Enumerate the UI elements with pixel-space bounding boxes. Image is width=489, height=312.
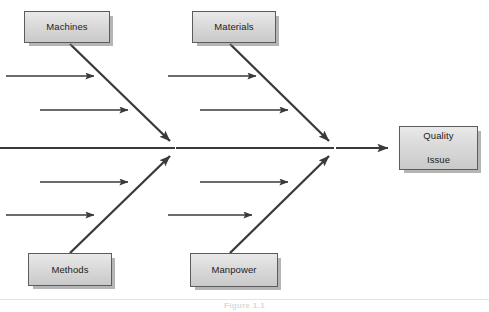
category-box-materials[interactable]: Materials [192,11,276,43]
effect-label-line1: Quality [423,130,453,142]
bone-methods [70,156,170,253]
category-box-methods[interactable]: Methods [28,253,112,286]
bone-materials [230,44,329,141]
category-label-materials: Materials [214,21,253,33]
category-label-methods: Methods [51,264,88,276]
category-box-manpower[interactable]: Manpower [190,253,278,287]
sub-causes-left [6,76,128,215]
effect-label-line2: Issue [423,154,453,166]
bone-manpower [230,156,329,253]
page-scan-edge [0,299,489,300]
category-box-machines[interactable]: Machines [24,11,110,43]
effect-box-quality-issue[interactable]: Quality Issue [399,126,478,170]
effect-label: Quality Issue [423,130,453,166]
sub-causes-right [168,76,288,215]
bone-machines [70,44,170,141]
fishbone-diagram: Machines Materials Methods Manpower Qual… [0,0,489,312]
category-label-manpower: Manpower [211,264,256,276]
figure-caption: Figure 1.1 [0,301,489,312]
category-label-machines: Machines [46,21,87,33]
